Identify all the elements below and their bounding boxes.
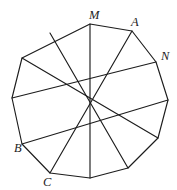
vertex-label-m: M [88, 8, 100, 22]
vertex-label-c: C [43, 175, 52, 189]
vertex-label-n: N [160, 49, 170, 63]
vertex-label-a: A [130, 15, 139, 29]
chord-a-to-c [50, 31, 132, 173]
vertex-label-b: B [14, 141, 22, 155]
chord-top-left-to-bottom-right [50, 33, 128, 168]
hendecagon-star-diagram: M A N B C [0, 0, 177, 190]
chord-b-to-right-vertex [22, 100, 168, 144]
geometry-figure-container: M A N B C [0, 0, 177, 190]
